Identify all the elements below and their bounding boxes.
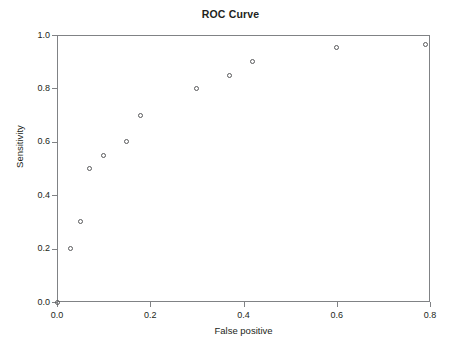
x-axis-title: False positive xyxy=(57,325,430,336)
x-axis-tick-label: 0.4 xyxy=(224,310,264,320)
y-axis-tick-label: 1.0 xyxy=(14,31,50,40)
data-point-marker xyxy=(194,86,199,91)
plot-data-area xyxy=(57,35,430,302)
data-point-marker xyxy=(55,300,60,305)
data-point-marker xyxy=(227,73,232,78)
y-axis-tick-label-text: 0.0 xyxy=(22,298,50,307)
y-axis-tick-label-text: 0.2 xyxy=(22,244,50,253)
x-axis-tick-label: 0.0 xyxy=(37,310,77,320)
x-axis-tick-label: 0.6 xyxy=(317,310,357,320)
data-point-marker xyxy=(334,45,339,50)
y-axis-tick-label: 0.0 xyxy=(14,298,50,307)
y-axis-tick-label-text: 0.6 xyxy=(22,137,50,146)
data-point-marker xyxy=(250,59,255,64)
x-axis-tick xyxy=(430,302,431,307)
x-axis-tick xyxy=(150,302,151,307)
x-axis-tick xyxy=(244,302,245,307)
y-axis-tick-label-text: 1.0 xyxy=(22,31,50,40)
data-point-marker xyxy=(87,166,92,171)
y-axis-tick-label: 0.8 xyxy=(14,84,50,93)
data-point-marker xyxy=(138,113,143,118)
y-axis-tick-label-text: 0.8 xyxy=(22,84,50,93)
y-axis-tick-label-text: 0.4 xyxy=(22,191,50,200)
data-point-marker xyxy=(68,246,73,251)
x-axis-tick-label: 0.8 xyxy=(410,310,450,320)
data-point-marker xyxy=(78,219,83,224)
data-point-marker xyxy=(101,153,106,158)
x-axis-tick-label: 0.2 xyxy=(130,310,170,320)
data-point-marker xyxy=(423,42,428,47)
y-axis-title: Sensitivity xyxy=(14,107,25,187)
chart-title: ROC Curve xyxy=(0,8,461,20)
y-axis-tick-label: 0.2 xyxy=(14,244,50,253)
y-axis-tick-label: 0.4 xyxy=(14,191,50,200)
data-point-marker xyxy=(124,139,129,144)
x-axis-tick xyxy=(337,302,338,307)
roc-curve-chart: ROC Curve 0.00.20.40.60.81.0 0.00.20.40.… xyxy=(0,0,461,348)
